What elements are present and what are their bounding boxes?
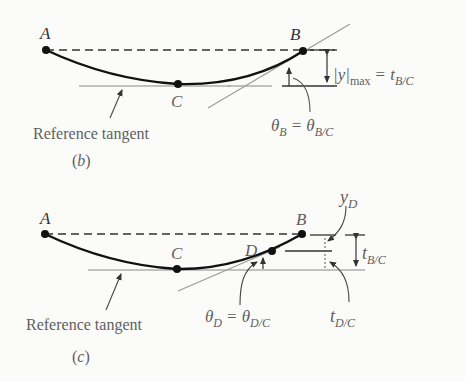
reference-tangent-leader — [106, 274, 121, 310]
label-c: C — [171, 92, 183, 111]
tangent-at-b-line — [208, 24, 350, 108]
point-c — [174, 80, 182, 88]
point-b — [298, 230, 306, 238]
yd-label: yD — [338, 187, 358, 211]
tbc-label: tB/C — [362, 243, 387, 267]
panel-c-caption: (c) — [72, 348, 90, 366]
reference-tangent-label: Reference tangent — [26, 316, 142, 334]
label-d: D — [244, 241, 258, 260]
panel-b: A B C Reference tangent (b) |y|max=tB/C … — [33, 24, 415, 170]
label-a: A — [39, 24, 51, 43]
theta-b-leader — [293, 78, 310, 112]
point-d — [268, 247, 276, 255]
label-b: B — [296, 210, 307, 229]
yd-leader — [328, 206, 346, 241]
tdc-label: tD/C — [330, 306, 356, 330]
point-b — [299, 47, 307, 55]
reference-tangent-leader — [110, 90, 122, 118]
theta-d-label: θD=θD/C — [205, 307, 271, 330]
tdc-leader — [330, 262, 349, 302]
label-c: C — [171, 244, 183, 263]
panel-b-caption: (b) — [72, 152, 91, 170]
beam-deflection-figure: A B C Reference tangent (b) |y|max=tB/C … — [0, 0, 465, 381]
label-b: B — [290, 25, 301, 44]
label-a: A — [39, 209, 51, 228]
point-a — [42, 46, 50, 54]
reference-tangent-label: Reference tangent — [33, 125, 149, 143]
ymax-label: |y|max=tB/C — [333, 65, 415, 88]
elastic-curve — [46, 50, 303, 84]
panel-c: A B C D Reference tangent (c) yD tB/C tD… — [26, 187, 387, 366]
theta-b-label: θB=θB/C — [271, 116, 334, 139]
theta-d-leader — [240, 262, 257, 305]
point-c — [173, 265, 181, 273]
point-a — [41, 230, 49, 238]
